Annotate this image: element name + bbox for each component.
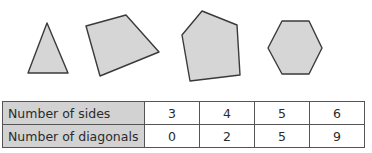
row-label-sides: Number of sides [3,102,145,125]
table-cell: 6 [310,102,365,125]
triangle-shape [28,23,68,73]
row-label-diagonals: Number of diagonals [3,125,145,148]
table-row-diagonals: Number of diagonals 0 2 5 9 [3,125,365,148]
table-cell: 3 [145,102,200,125]
table-cell: 9 [310,125,365,148]
table-row-sides: Number of sides 3 4 5 6 [3,102,365,125]
table-cell: 2 [200,125,255,148]
hexagon-shape [268,21,322,74]
quadrilateral-shape [86,15,159,76]
sides-diagonals-table: Number of sides 3 4 5 6 Number of diagon… [2,101,365,148]
table-cell: 4 [200,102,255,125]
pentagon-shape [182,11,240,81]
table-cell: 5 [255,125,310,148]
polygon-figures [0,0,372,95]
table-cell: 5 [255,102,310,125]
polygon-drawing [0,0,372,95]
table-cell: 0 [145,125,200,148]
